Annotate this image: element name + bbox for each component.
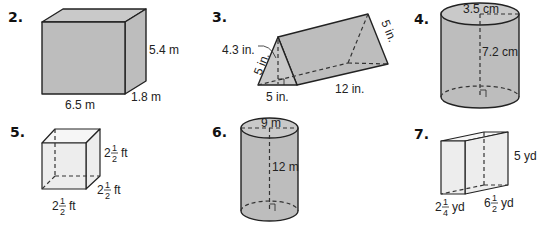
svg-text:4: 4	[443, 208, 448, 218]
triangle-height-label: 4.3 in.	[222, 43, 255, 57]
problem-number: 3.	[212, 9, 227, 25]
height-label: 5 yd	[514, 149, 537, 163]
svg-text:2: 2	[435, 200, 442, 214]
svg-text:2: 2	[97, 183, 104, 197]
svg-text:1: 1	[492, 193, 497, 203]
height-label: 5.4 m	[149, 43, 179, 57]
problem-number: 7.	[414, 126, 429, 142]
diameter-label: 3.5 cm	[463, 2, 499, 16]
depth-label: 2 1 2 ft	[97, 180, 121, 201]
svg-text:2: 2	[112, 154, 117, 164]
problem-number: 5.	[10, 124, 25, 140]
triangular-prism-figure	[258, 14, 388, 85]
diameter-label: 9 m	[261, 116, 281, 130]
length-label: 12 in.	[335, 82, 364, 96]
length-label: 6.5 m	[65, 98, 95, 112]
svg-text:2: 2	[105, 191, 110, 201]
problem-number: 6.	[212, 124, 227, 140]
problem-5: 5. 2 1 2 ft 2 1 2 ft 2 1 2 ft	[10, 124, 128, 217]
height-label: 7.2 cm	[482, 45, 518, 59]
base-label: 5 in.	[266, 90, 289, 104]
svg-text:1: 1	[60, 196, 65, 206]
svg-text:1: 1	[112, 143, 117, 153]
svg-text:2: 2	[492, 204, 497, 214]
problem-3: 3. 4.3 in. 5 in. 5 in. 12 in. 5 in.	[212, 9, 400, 104]
width-label: 1.8 m	[131, 90, 161, 104]
svg-text:6: 6	[484, 196, 491, 210]
rectangular-prism-figure	[441, 132, 508, 194]
height-label: 2 1 2 ft	[104, 143, 128, 164]
height-label: 12 m	[272, 160, 299, 174]
side-right-label: 5 in.	[378, 18, 399, 44]
problem-2: 2. 5.4 m 1.8 m 6.5 m	[8, 9, 179, 112]
problem-6: 6. 9 m 12 m	[212, 116, 299, 221]
svg-text:yd: yd	[501, 196, 514, 210]
problem-4: 4. 3.5 cm 7.2 cm	[414, 2, 519, 108]
problem-7: 7. 5 yd 2 1 4 yd 6 1 2 yd	[414, 126, 537, 218]
svg-text:2: 2	[104, 146, 111, 160]
svg-text:1: 1	[443, 197, 448, 207]
svg-text:ft: ft	[121, 146, 128, 160]
svg-text:yd: yd	[452, 200, 465, 214]
svg-text:2: 2	[60, 207, 65, 217]
svg-text:ft: ft	[69, 199, 76, 213]
cube-figure	[42, 129, 100, 189]
length-label: 6 1 2 yd	[484, 193, 514, 214]
width-label: 2 1 2 ft	[52, 196, 76, 217]
rectangular-prism-figure	[42, 9, 146, 94]
svg-text:1: 1	[105, 180, 110, 190]
problem-number: 4.	[414, 11, 429, 27]
width-label: 2 1 4 yd	[435, 197, 465, 218]
svg-text:2: 2	[52, 199, 59, 213]
problem-number: 2.	[8, 9, 23, 25]
svg-text:ft: ft	[114, 183, 121, 197]
